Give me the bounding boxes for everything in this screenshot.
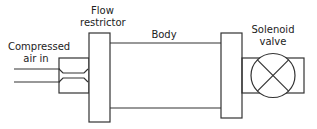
inlet-label-line1: Compressed (8, 41, 64, 53)
nozzle-bottom (59, 78, 88, 82)
nozzle-top (59, 69, 88, 73)
valve-label-line2: valve (250, 36, 296, 48)
body-label-text: Body (151, 29, 176, 40)
restrictor-label: Flow restrictor (80, 5, 125, 29)
inlet-label-line2: air in (8, 53, 64, 65)
restrictor-label-line2: restrictor (80, 17, 125, 29)
valve-label-line1: Solenoid (250, 24, 296, 36)
inlet-label: Compressed air in (8, 41, 64, 65)
restrictor-label-line1: Flow (80, 5, 125, 17)
body-label: Body (148, 29, 180, 41)
valve-label: Solenoid valve (250, 24, 296, 48)
end-block (221, 33, 242, 118)
flow-restrictor-block (89, 33, 110, 122)
